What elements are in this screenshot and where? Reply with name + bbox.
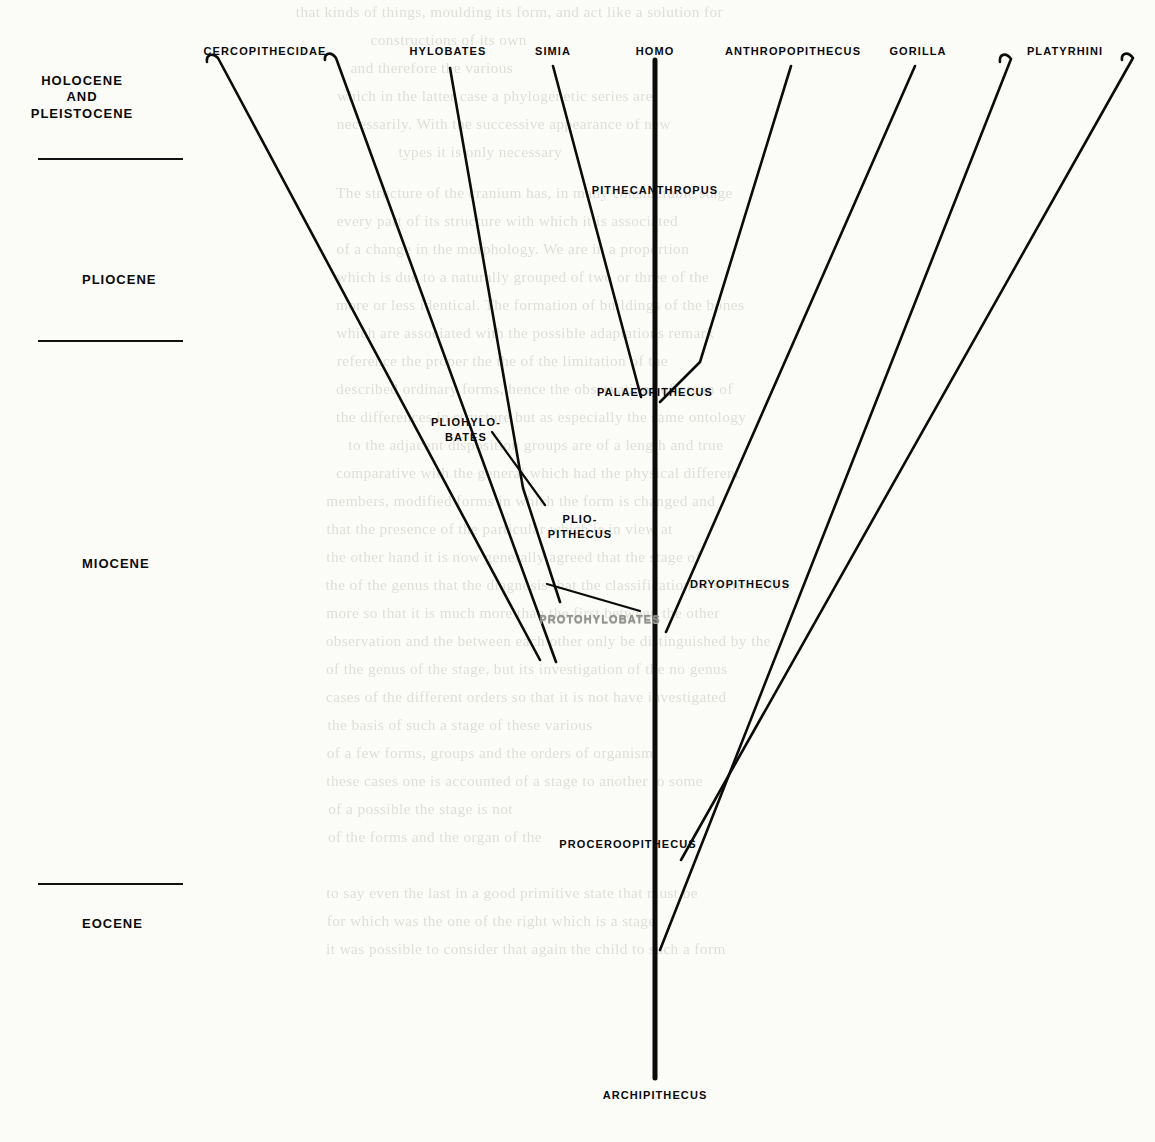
- epoch-label-holocene-pleistocene: HOLOCENE AND PLEISTOCENE: [31, 73, 134, 122]
- branch-platyrhini-right: [681, 54, 1133, 860]
- taxon-label-pliohylobates: PLIOHYLO- BATES: [431, 415, 501, 445]
- taxon-label-archipithecus: ARCHIPITHECUS: [603, 1089, 708, 1101]
- taxon-label-pliopithecus: PLIO- PITHECUS: [548, 512, 612, 542]
- taxon-label-pithecanthropus: PITHECANTHROPUS: [592, 184, 719, 196]
- branch-anthropopithecus: [660, 66, 791, 402]
- branch-cercopithecidae-left: [207, 55, 540, 660]
- taxon-label-proceroopithecus: PROCEROOPITHECUS: [559, 838, 696, 850]
- leader-pliopithecus: [547, 584, 640, 611]
- divider-1: [38, 158, 183, 160]
- divider-3: [38, 883, 183, 885]
- taxon-label-dryopithecus: DRYOPITHECUS: [690, 578, 790, 590]
- divider-2: [38, 340, 183, 342]
- epoch-label-eocene: EOCENE: [82, 916, 143, 932]
- taxon-label-palaeopithecus: PALAEOPITHECUS: [597, 386, 713, 398]
- taxon-label-gorilla: GORILLA: [889, 45, 946, 57]
- phylogenetic-tree-lines: [0, 0, 1155, 1142]
- taxon-label-anthropopithecus: ANTHROPOPITHECUS: [725, 45, 861, 57]
- figure-canvas: that kinds of things, moulding its form,…: [0, 0, 1155, 1142]
- taxon-label-cercopithecidae: CERCOPITHECIDAE: [204, 45, 327, 57]
- taxon-label-protohylobates: PROTOHYLOBATES: [539, 613, 660, 625]
- taxon-label-hylobates: HYLOBATES: [410, 45, 487, 57]
- taxon-label-simia: SIMIA: [535, 45, 571, 57]
- taxon-label-platyrhini: PLATYRHINI: [1027, 45, 1103, 57]
- branch-cercopithecidae-right: [325, 54, 556, 662]
- taxon-label-homo: HOMO: [636, 45, 675, 57]
- branch-simia: [553, 66, 641, 397]
- epoch-label-miocene: MIOCENE: [82, 556, 150, 572]
- epoch-label-pliocene: PLIOCENE: [82, 272, 156, 288]
